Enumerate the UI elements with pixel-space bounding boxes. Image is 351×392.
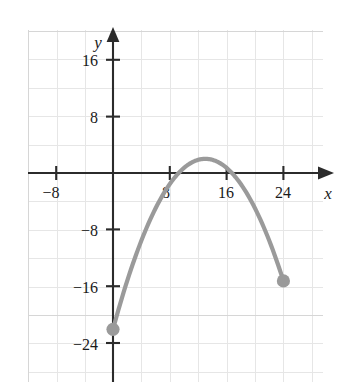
y-tick-label--24: −24 <box>73 336 98 353</box>
y-tick-label-16: 16 <box>82 52 98 69</box>
x-axis-label: x <box>323 184 332 203</box>
y-tick-label--8: −8 <box>81 222 98 239</box>
y-tick-label--16: −16 <box>73 279 98 296</box>
curve-endpoint-right <box>277 274 290 287</box>
curve-endpoint-left <box>106 323 119 336</box>
x-axis-arrowhead <box>318 167 334 180</box>
x-tick-label--8: −8 <box>42 184 59 201</box>
x-tick-label-24: 24 <box>275 184 291 201</box>
y-tick-label-8: 8 <box>90 109 98 126</box>
x-tick-label-16: 16 <box>218 184 234 201</box>
y-axis-label: y <box>92 33 102 52</box>
graph-figure: −8 8 16 24 16 8 −8 −16 −24 y x <box>0 0 351 392</box>
coordinate-plane-chart: −8 8 16 24 16 8 −8 −16 −24 y x <box>0 0 351 392</box>
plot-background <box>28 30 323 382</box>
